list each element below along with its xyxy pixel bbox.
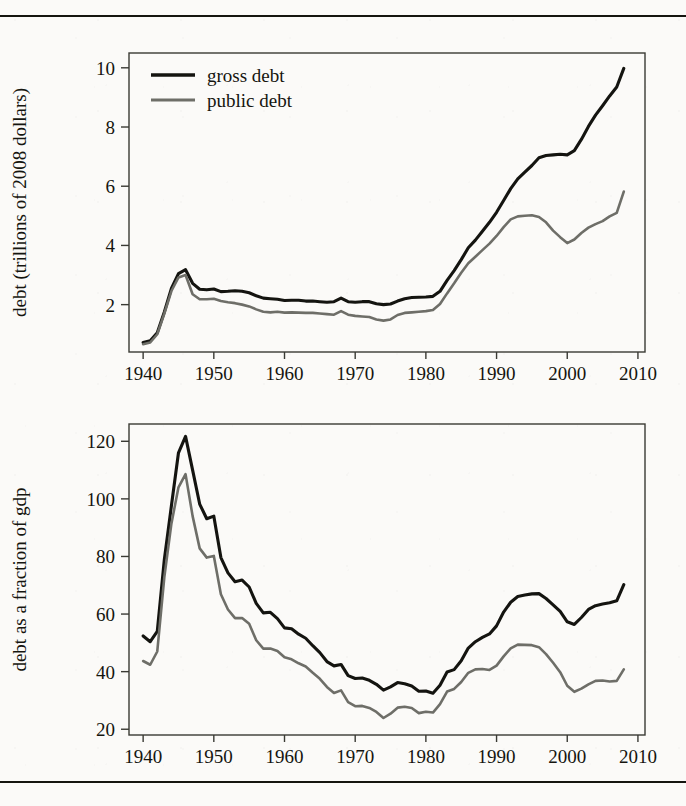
x-tick-label: 1950 — [195, 746, 233, 767]
y-tick-label: 20 — [96, 719, 115, 740]
x-tick-label: 1940 — [124, 746, 162, 767]
x-tick-label: 1980 — [407, 363, 445, 384]
x-tick-label: 1970 — [336, 363, 374, 384]
y-tick-label: 40 — [96, 662, 115, 683]
x-tick-label: 1960 — [266, 746, 304, 767]
x-tick-label: 1980 — [407, 746, 445, 767]
top-chart-svg: 19401950196019701980199020002010246810de… — [0, 30, 686, 390]
x-tick-label: 1970 — [336, 746, 374, 767]
series-line-public-debt — [143, 192, 624, 345]
figure-page: 19401950196019701980199020002010246810de… — [0, 0, 686, 806]
x-tick-label: 1960 — [266, 363, 304, 384]
x-tick-label: 2000 — [548, 746, 586, 767]
x-tick-label: 1950 — [195, 363, 233, 384]
y-tick-label: 4 — [106, 235, 116, 256]
y-axis-label: debt as a fraction of gdp — [9, 487, 30, 671]
x-tick-label: 1990 — [478, 363, 516, 384]
x-tick-label: 2010 — [619, 746, 657, 767]
y-tick-label: 120 — [87, 431, 116, 452]
legend-label: gross debt — [207, 65, 285, 86]
legend-label: public debt — [207, 90, 293, 111]
top-horizontal-rule — [0, 15, 686, 17]
y-tick-label: 8 — [106, 117, 116, 138]
x-tick-label: 1990 — [478, 746, 516, 767]
chart-panel-bottom: 1940195019601970198019902000201020406080… — [0, 400, 686, 775]
y-axis-label: debt (trillions of 2008 dollars) — [9, 88, 31, 317]
x-tick-label: 2010 — [619, 363, 657, 384]
bottom-horizontal-rule — [0, 781, 686, 783]
bottom-chart-svg: 1940195019601970198019902000201020406080… — [0, 400, 686, 775]
y-tick-label: 6 — [106, 176, 116, 197]
x-tick-label: 2000 — [548, 363, 586, 384]
series-group — [143, 436, 624, 718]
y-tick-label: 80 — [96, 546, 115, 567]
y-tick-label: 100 — [87, 489, 116, 510]
y-tick-label: 2 — [106, 295, 116, 316]
series-line-public-debt — [143, 474, 624, 718]
y-tick-label: 60 — [96, 604, 115, 625]
x-tick-label: 1940 — [124, 363, 162, 384]
y-tick-label: 10 — [96, 58, 115, 79]
chart-panel-top: 19401950196019701980199020002010246810de… — [0, 30, 686, 390]
